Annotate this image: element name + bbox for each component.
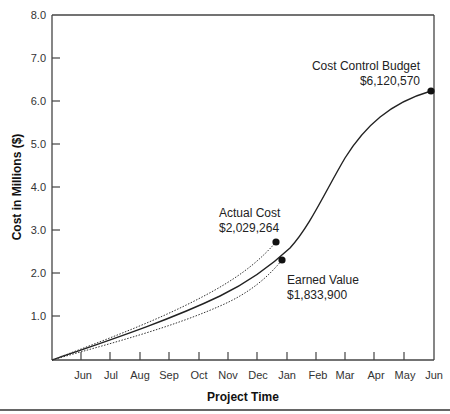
x-tick-label: Sep: [159, 369, 179, 381]
actual-cost-annotation: Actual Cost $2,029,264: [219, 206, 281, 235]
x-tick-label: Apr: [367, 369, 384, 381]
x-tick-label: Dec: [248, 369, 268, 381]
y-tick-label: 2.0: [31, 267, 46, 279]
y-axis-tick-labels: 1.0 2.0 3.0 4.0 5.0 6.0 7.0 8.0: [31, 9, 46, 322]
y-tick-label: 5.0: [31, 138, 46, 150]
budget-value: $6,120,570: [360, 74, 420, 88]
y-tick-label: 3.0: [31, 224, 46, 236]
earned-value-value: $1,833,900: [287, 288, 347, 302]
budget-label: Cost Control Budget: [312, 59, 421, 73]
earned-value-curve: [52, 260, 282, 360]
x-tick-label: Jan: [278, 369, 296, 381]
actual-cost-curve: [52, 242, 276, 360]
x-tick-label: May: [395, 369, 416, 381]
y-tick-label: 4.0: [31, 181, 46, 193]
x-tick-label: Jun: [425, 369, 443, 381]
earned-value-chart: 1.0 2.0 3.0 4.0 5.0 6.0 7.0 8.0 Jun Jul …: [0, 0, 450, 414]
x-tick-label: Mar: [336, 369, 355, 381]
x-tick-label: Nov: [218, 369, 238, 381]
x-axis-tick-labels: Jun Jul Aug Sep Oct Nov Dec Jan Feb Mar …: [74, 369, 443, 381]
y-axis-ticks: [52, 58, 60, 316]
earned-value-label: Earned Value: [287, 273, 359, 287]
x-tick-label: Feb: [309, 369, 328, 381]
y-tick-label: 8.0: [31, 9, 46, 21]
x-tick-label: Aug: [130, 369, 150, 381]
budget-annotation: Cost Control Budget $6,120,570: [312, 59, 421, 88]
x-tick-label: Jul: [104, 369, 118, 381]
earned-value-annotation: Earned Value $1,833,900: [287, 273, 359, 302]
x-tick-label: Oct: [190, 369, 207, 381]
y-tick-label: 1.0: [31, 310, 46, 322]
actual-cost-point: [272, 238, 279, 245]
budget-point: [427, 87, 434, 94]
x-tick-label: Jun: [74, 369, 92, 381]
y-tick-label: 6.0: [31, 95, 46, 107]
actual-cost-label: Actual Cost: [219, 206, 281, 220]
earned-value-point: [278, 256, 285, 263]
y-tick-label: 7.0: [31, 52, 46, 64]
y-axis-title: Cost in Millions ($): [10, 134, 24, 241]
actual-cost-value: $2,029,264: [219, 221, 279, 235]
x-axis-title: Project Time: [207, 390, 279, 404]
x-axis-ticks: [81, 352, 404, 360]
